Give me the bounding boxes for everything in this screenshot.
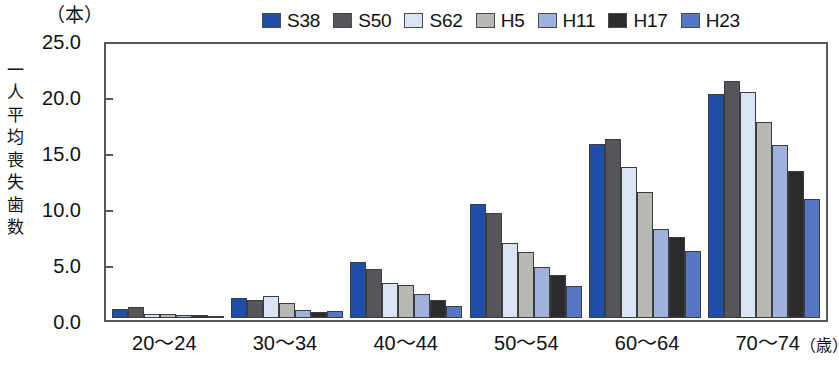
bar-h23[interactable] [446,306,462,318]
bar-h5[interactable] [160,314,176,318]
y-axis-tick-label: 20.0 [11,88,81,108]
bar-h11[interactable] [176,315,192,318]
legend-item-h17[interactable]: H17 [608,11,667,30]
y-axis-title-char: 一 [2,60,28,82]
bar-h17[interactable] [669,237,685,318]
bar-s50[interactable] [366,269,382,318]
bar-s38[interactable] [231,298,247,318]
y-axis-tick [104,210,113,212]
y-axis-tick-label: 0.0 [11,312,81,332]
bar-groups [108,46,824,318]
bar-h23[interactable] [566,286,582,318]
bar-h11[interactable] [653,229,669,318]
plot-wrapper: 0.05.010.015.020.025.0 [104,42,828,322]
y-axis-tick [104,98,113,100]
x-axis-unit-label: （歳） [800,338,839,354]
bar-group [227,46,346,318]
legend-label: S50 [358,11,391,30]
legend-label: H17 [633,11,667,30]
y-axis-unit-label: （本） [46,6,103,25]
bar-s62[interactable] [502,243,518,318]
legend-item-h11[interactable]: H11 [538,11,596,30]
bar-s62[interactable] [740,92,756,318]
legend-label: H5 [501,11,525,30]
y-axis-tick-label: 5.0 [11,256,81,276]
legend-item-s38[interactable]: S38 [262,11,320,30]
x-axis-tick-label: 40～44 [345,333,466,359]
bar-h5[interactable] [279,303,295,318]
y-axis-title-char: 失 [2,172,28,194]
x-axis-tick-label: 60～64 [587,333,708,359]
bar-s62[interactable] [382,283,398,318]
bar-h5[interactable] [756,122,772,319]
legend-label: H11 [563,11,596,30]
bar-h11[interactable] [534,267,550,318]
bar-s50[interactable] [128,307,144,318]
legend-swatch-icon [681,13,700,28]
bar-h17[interactable] [311,312,327,318]
legend-swatch-icon [476,13,495,28]
bar-s62[interactable] [144,314,160,318]
x-axis-tick-label: 50～54 [466,333,587,359]
bar-h17[interactable] [788,171,804,318]
bar-h11[interactable] [295,310,311,318]
bar-h23[interactable] [685,251,701,318]
y-axis-title-char: 数 [2,217,28,239]
bar-h17[interactable] [550,275,566,318]
plot-area [104,42,828,322]
legend-swatch-icon [538,13,557,28]
bar-h17[interactable] [192,315,208,318]
legend-item-s50[interactable]: S50 [333,11,391,30]
y-axis-tick-label: 15.0 [11,144,81,164]
bar-group [466,46,585,318]
chart-figure: （本） 一人平均喪失歯数 S38S50S62H5H11H17H23 0.05.0… [0,0,839,392]
x-axis-tick-label: 20～24 [104,333,225,359]
y-axis-tick-label: 25.0 [11,32,81,52]
legend-swatch-icon [333,13,352,28]
bar-h17[interactable] [430,300,446,318]
bar-s50[interactable] [247,300,263,318]
bar-s62[interactable] [621,167,637,318]
bar-h23[interactable] [327,311,343,318]
bar-group [108,46,227,318]
x-axis-labels: 20～2430～3440～4450～5460～6470～74 [104,333,828,359]
bar-h11[interactable] [772,145,788,318]
bar-h23[interactable] [208,316,224,318]
bar-s62[interactable] [263,296,279,318]
bar-h11[interactable] [414,294,430,318]
bar-s38[interactable] [470,204,486,318]
legend-swatch-icon [262,13,281,28]
legend-item-h5[interactable]: H5 [476,11,525,30]
legend-swatch-icon [404,13,423,28]
bar-s38[interactable] [350,262,366,318]
bar-s50[interactable] [486,213,502,318]
bar-s50[interactable] [605,139,621,318]
bar-group [705,46,824,318]
x-axis-tick-label: 30～34 [225,333,346,359]
bar-s38[interactable] [708,94,724,318]
legend-label: S38 [287,11,320,30]
legend-item-h23[interactable]: H23 [681,11,740,30]
legend-item-s62[interactable]: S62 [404,11,462,30]
bar-group [347,46,466,318]
bar-group [585,46,704,318]
figure-caption [118,372,738,388]
bar-s38[interactable] [112,309,128,318]
legend-label: S62 [429,11,462,30]
y-axis-tick [104,154,113,156]
bar-h23[interactable] [804,199,820,318]
y-axis-title-char: 平 [2,105,28,127]
bar-h5[interactable] [637,192,653,318]
bar-s38[interactable] [589,144,605,318]
chart-legend: S38S50S62H5H11H17H23 [262,8,822,32]
y-axis-tick [104,266,113,268]
bar-s50[interactable] [724,81,740,318]
bar-h5[interactable] [398,285,414,318]
legend-swatch-icon [608,13,627,28]
y-axis-tick-label: 10.0 [11,200,81,220]
legend-label: H23 [706,11,740,30]
bar-h5[interactable] [518,252,534,318]
